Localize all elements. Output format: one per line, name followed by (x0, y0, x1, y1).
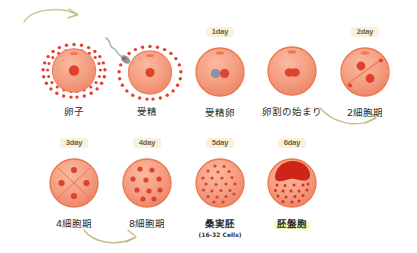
caption-blastocyst: 胚盤胞 (249, 219, 335, 230)
caption-blastocyst-text: 胚盤胞 (274, 218, 310, 229)
caption-two-cell: 2細胞期 (322, 108, 408, 119)
day-badge-two-cell: 2day (351, 27, 379, 38)
day-badge-eight-cell: 4day (133, 138, 161, 149)
sperm-icon (106, 38, 132, 65)
infographic-canvas: 卵子 (0, 0, 417, 253)
subcaption-morula: (16-32 Cells) (177, 231, 263, 238)
day-badge-blastocyst: 6day (278, 138, 306, 149)
day-badge-zygote: 1day (206, 27, 234, 38)
stage-blastocyst: 6day 胚盤胞 (249, 131, 335, 231)
day-badge-four-cell: 3day (60, 138, 88, 149)
day-badge-morula: 5day (206, 138, 234, 149)
stage-two-cell: 2day 2細胞期 (322, 20, 408, 120)
cell-art-blastocyst (249, 150, 335, 216)
cell-art-two-cell (322, 39, 408, 105)
